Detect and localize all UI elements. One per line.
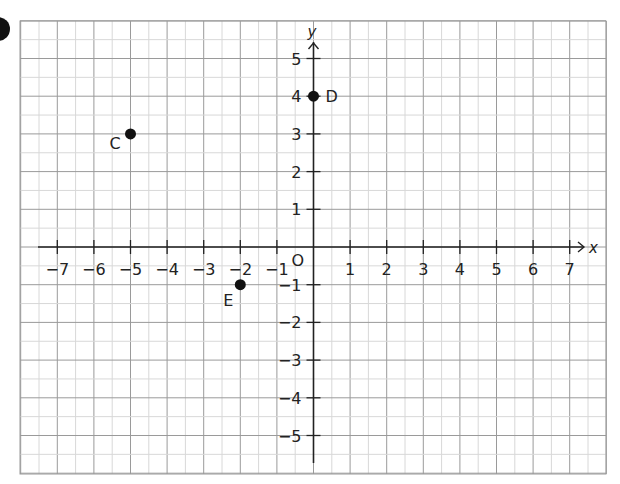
coordinate-plane: xyO −7−6−5−4−3−2−1123456754321−1−2−3−4−5… (0, 0, 620, 484)
x-tick-label: −4 (155, 260, 179, 279)
x-tick-label: −3 (192, 260, 216, 279)
x-tick-label: 6 (528, 260, 538, 279)
x-tick-label: 3 (418, 260, 428, 279)
x-tick-label: 5 (491, 260, 501, 279)
x-tick-label: 4 (455, 260, 465, 279)
y-tick-label: 1 (291, 200, 301, 219)
y-tick-label: −1 (278, 276, 302, 295)
point-c (125, 128, 136, 139)
axes: xyO (38, 23, 598, 463)
point-d (308, 91, 319, 102)
y-tick-label: 2 (291, 163, 301, 182)
y-tick-label: 5 (291, 50, 301, 69)
x-tick-label: 2 (382, 260, 392, 279)
origin-label: O (292, 251, 305, 270)
x-tick-label: −6 (82, 260, 106, 279)
plotted-points: CDE (110, 87, 338, 310)
y-tick-label: −4 (278, 389, 302, 408)
point-e (235, 279, 246, 290)
point-label-d: D (326, 87, 338, 106)
coordinate-grid-figure: xyO −7−6−5−4−3−2−1123456754321−1−2−3−4−5… (0, 0, 620, 484)
x-axis-label: x (588, 239, 598, 257)
x-tick-label: −2 (229, 260, 253, 279)
y-tick-label: −5 (278, 427, 302, 446)
y-tick-label: 3 (291, 125, 301, 144)
point-label-c: C (110, 134, 121, 153)
x-tick-label: 7 (565, 260, 575, 279)
y-tick-label: −3 (278, 351, 302, 370)
x-tick-label: −5 (119, 260, 143, 279)
x-tick-label: −7 (46, 260, 70, 279)
y-axis-label: y (307, 23, 318, 41)
x-tick-label: 1 (345, 260, 355, 279)
point-label-e: E (223, 291, 233, 310)
y-tick-label: 4 (291, 87, 301, 106)
y-tick-label: −2 (278, 313, 302, 332)
